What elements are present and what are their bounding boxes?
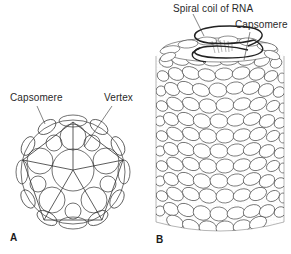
capsomere-rows (153, 64, 288, 237)
capsomere-leader-line (37, 106, 45, 124)
capsomere-label-b: Capsomere (235, 19, 288, 30)
virus-capsid-diagram (0, 0, 291, 254)
capsomere-label-a: Capsomere (10, 92, 63, 103)
icosahedron-edges (23, 122, 123, 220)
helical-capsid-drawing (150, 14, 290, 246)
rna-label: Spiral coil of RNA (173, 3, 253, 14)
vertex-label: Vertex (104, 92, 133, 103)
panel-a-letter: A (10, 232, 17, 243)
rna-leader-line (193, 14, 204, 36)
icosahedral-capsid-drawing (16, 106, 130, 229)
panel-b-letter: B (156, 234, 163, 245)
